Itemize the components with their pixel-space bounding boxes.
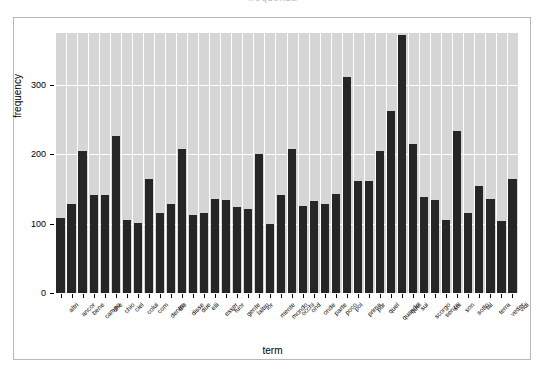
x-axis-tick-mark [259,294,260,298]
bar [189,215,197,293]
x-axis-tick-mark [94,294,95,298]
x-axis-tick-mark [149,294,150,298]
y-axis-tick-label: 0 [12,289,46,298]
x-axis-tick-mark [402,294,403,298]
x-axis-tick-mark [435,294,436,298]
bar [442,220,450,293]
bar [101,195,109,293]
bar [244,209,252,293]
x-axis-tick-mark [182,294,183,298]
x-axis-tick-mark [72,294,73,298]
bar [420,197,428,293]
bar [56,218,64,293]
x-axis-tick-mark [413,294,414,298]
x-axis-tick-mark [171,294,172,298]
x-axis-tick-mark [237,294,238,298]
y-axis-tick-mark [50,224,54,225]
bar [178,149,186,293]
bar [332,194,340,293]
x-axis-tick-mark [83,294,84,298]
bar [321,204,329,293]
x-axis-tick-mark [501,294,502,298]
gridline-vertical [253,33,254,293]
bar [398,35,406,293]
chart-figure: frequenza 0100200300 frequency altrianco… [0,0,545,376]
bar [67,204,75,293]
bar [123,220,131,293]
x-axis-tick-mark [325,294,326,298]
x-axis-tick-mark [369,294,370,298]
x-axis-tick-mark [61,294,62,298]
x-axis-tick-mark [457,294,458,298]
bar [266,224,274,293]
bar [200,213,208,293]
x-axis-tick-mark [314,294,315,298]
x-axis-tick-mark [380,294,381,298]
x-axis-tick-mark [292,294,293,298]
x-axis-tick-mark [138,294,139,298]
y-axis-tick-label: 100 [12,220,46,229]
clipped-title-remnant: frequenza [0,0,545,13]
y-axis-tick-mark [50,154,54,155]
x-axis-tick-mark [512,294,513,298]
y-axis-title: frequency [12,74,23,118]
bar [277,195,285,293]
bar [431,200,439,293]
bar [343,77,351,293]
bar [288,149,296,293]
bar [233,207,241,293]
gridline-vertical [264,33,265,293]
x-axis-tick-mark [248,294,249,298]
x-axis-tick-mark [303,294,304,298]
x-axis-tick-mark [160,294,161,298]
x-axis-tick-mark [105,294,106,298]
x-axis-tick-mark [116,294,117,298]
y-axis-tick-mark [50,85,54,86]
x-axis-tick-mark [347,294,348,298]
gridline-vertical [275,33,276,293]
bar [78,151,86,293]
bar [475,186,483,293]
bar [376,151,384,293]
bar [310,201,318,293]
x-axis-title: term [0,345,545,356]
x-axis-tick-mark [424,294,425,298]
bar [145,179,153,293]
y-axis-tick-mark [50,293,54,294]
bar [497,221,505,293]
x-axis-tick-mark [391,294,392,298]
bar [255,154,263,293]
bar [211,199,219,293]
y-axis-tick-label: 200 [12,150,46,159]
plot-panel [55,33,518,293]
bar [387,111,395,293]
bar [409,144,417,293]
x-axis-tick-mark [215,294,216,298]
bar [112,136,120,293]
bar [508,179,516,293]
bar [134,223,142,293]
x-axis-tick-mark [358,294,359,298]
bar [464,213,472,293]
bar [90,195,98,293]
bar [299,206,307,293]
bar [365,181,373,293]
x-axis-tick-mark [281,294,282,298]
bar [453,131,461,293]
bar [222,200,230,293]
x-axis-tick-mark [468,294,469,298]
x-axis-tick-mark [193,294,194,298]
bar [354,181,362,293]
x-axis-tick-mark [446,294,447,298]
x-axis-tick-mark [490,294,491,298]
bar [156,213,164,293]
x-axis-tick-mark [336,294,337,298]
x-axis-tick-mark [270,294,271,298]
bar [486,199,494,293]
x-axis-tick-mark [204,294,205,298]
x-axis-tick-mark [479,294,480,298]
x-axis-tick-mark [226,294,227,298]
bar [167,204,175,293]
x-axis-tick-mark [127,294,128,298]
